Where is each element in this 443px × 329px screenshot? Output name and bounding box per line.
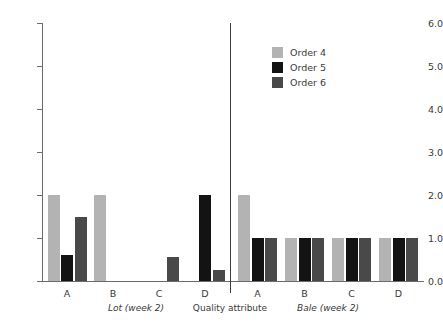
legend-swatch-icon: [272, 77, 283, 88]
bar: [238, 195, 250, 281]
legend-item[interactable]: Order 6: [272, 76, 326, 89]
bar: [75, 217, 87, 282]
bar: [332, 238, 344, 281]
panel-label-bale: Bale (week 2): [297, 303, 359, 313]
bar: [167, 257, 179, 281]
y-tick-mark: [37, 281, 42, 282]
legend: Order 4Order 5Order 6: [272, 46, 326, 91]
plot-area: [42, 23, 424, 281]
bar: [406, 238, 418, 281]
x-category-label: A: [64, 288, 71, 299]
bar: [94, 195, 106, 281]
bar: [359, 238, 371, 281]
bar-chart: 0.01.02.03.04.05.06.0 ABCDABCD Lot (week…: [0, 0, 443, 329]
legend-item[interactable]: Order 4: [272, 46, 326, 59]
bar: [393, 238, 405, 281]
legend-item[interactable]: Order 5: [272, 61, 326, 74]
bar: [265, 238, 277, 281]
bar: [346, 238, 358, 281]
bar: [379, 238, 391, 281]
x-axis-line: [42, 281, 424, 282]
x-category-label: C: [156, 288, 163, 299]
x-category-label: D: [395, 288, 402, 299]
x-category-label: B: [110, 288, 117, 299]
x-category-label: B: [301, 288, 308, 299]
bar: [199, 195, 211, 281]
x-category-label: A: [254, 288, 261, 299]
bar: [61, 255, 73, 281]
legend-label: Order 6: [290, 77, 326, 88]
bar: [213, 270, 225, 281]
x-category-label: D: [201, 288, 208, 299]
x-axis-title: Quality attribute: [193, 303, 267, 313]
legend-swatch-icon: [272, 47, 283, 58]
legend-label: Order 4: [290, 47, 326, 58]
legend-swatch-icon: [272, 62, 283, 73]
bar: [312, 238, 324, 281]
bar: [252, 238, 264, 281]
x-category-label: C: [348, 288, 355, 299]
legend-label: Order 5: [290, 62, 326, 73]
panel-label-lot: Lot (week 2): [108, 303, 164, 313]
bar: [285, 238, 297, 281]
bar: [48, 195, 60, 281]
bar: [299, 238, 311, 281]
